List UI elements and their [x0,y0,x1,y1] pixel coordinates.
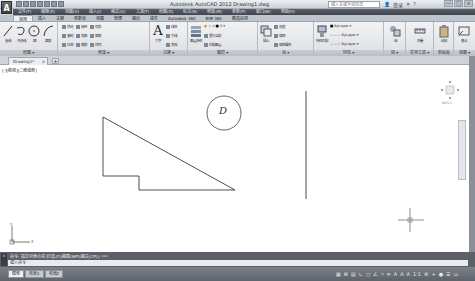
linear-dim-icon [166,25,170,29]
help-icon[interactable]: ? [413,1,416,8]
command-input[interactable]: 键入命令 [8,260,468,266]
save-as-icon[interactable] [37,1,43,7]
ribbon: 直线 多段线 圆 圆弧 绘图 ▾ 移动 旋转 修剪 复制 镜像 圆角 拉伸 [0,22,475,56]
osnap-icon[interactable]: ∠ [373,271,377,277]
match-layer-button[interactable]: 匹配图层 [204,42,221,47]
lineweight-dropdown[interactable]: ———ByLayer▾ [330,33,359,37]
sign-in-icon[interactable]: 👤 [384,1,390,8]
scale-button[interactable]: 缩放 [81,42,87,47]
circle-tool[interactable]: 圆 [28,24,40,43]
tab-model[interactable]: 模型 [8,270,24,278]
minimize-button[interactable]: — [444,0,453,7]
tab-layout1[interactable]: 布局1 [25,270,44,278]
command-history: 命令: 指定对角点或 [栏选(F)/圈围(WP)/圈交(CP)]: *** [10,253,108,259]
array-button[interactable]: 阵列 [95,42,101,47]
annotation-scale-icon[interactable]: A [407,271,410,277]
grid-icon[interactable]: ⊞ [344,271,348,277]
color-dropdown[interactable]: ■ByLayer▾ [330,24,351,28]
search-input[interactable]: 键入关键字或短语 [328,1,380,8]
group-tool[interactable]: 组 [389,24,401,43]
table-button[interactable]: 表格 [166,42,177,47]
arc-tool[interactable]: 圆弧 [42,24,54,43]
undo-icon[interactable] [51,1,57,7]
wcs-dropdown[interactable]: WCS ▾ [442,101,451,105]
arc-icon [42,24,54,38]
layer-properties-tool[interactable]: 图层特性 [190,24,202,43]
chevron-down-icon: ▾ [357,33,359,37]
tab-insert[interactable]: 插入 [33,15,51,21]
tab-parametric[interactable]: 参数化 [69,15,91,21]
tab-bim-360[interactable]: BIM 360 [201,15,227,21]
auto-scale-icon[interactable]: A [400,271,403,277]
sign-in-button[interactable]: 登录 [393,1,403,8]
tab-autodesk-360[interactable]: Autodesk 360 [163,15,201,21]
linetype-dropdown[interactable]: ———ByLayer▾ [330,42,359,46]
tab-view[interactable]: 视图 [91,15,109,21]
tab-manage[interactable]: 管理 [109,15,127,21]
hardware-accel-icon[interactable]: ● [439,271,443,277]
polar-icon[interactable]: ◻ [366,271,370,277]
fillet-button[interactable]: 圆角 [95,33,101,38]
stretch-button[interactable]: 拉伸 [67,42,73,47]
rotate-button[interactable]: 旋转 [81,24,87,29]
basepoint-tool[interactable]: 基点 [458,24,470,43]
copy-button[interactable]: 复制 [67,33,73,38]
document-tab-drawing1[interactable]: Drawing1* × [8,57,48,65]
text-tool[interactable]: A 文字 [152,24,164,43]
tab-home[interactable]: 常用 [13,15,33,21]
print-icon[interactable] [44,1,50,7]
add-icon[interactable]: + [432,271,436,277]
redo-icon[interactable] [58,1,64,7]
chevron-down-icon: ▾ [223,24,225,28]
snap-icon[interactable]: ▤ [351,271,356,277]
new-tab-button[interactable]: + [52,58,59,64]
clean-screen-icon[interactable]: ▭ [454,271,459,277]
insert-block-tool[interactable]: 插入 [260,24,272,43]
tab-plugins[interactable]: 插件 [145,15,163,21]
command-line-handle[interactable]: × [1,253,7,266]
trim-button[interactable]: 修剪 [95,24,101,29]
paste-tool[interactable]: 粘贴 [438,24,450,43]
mirror-button[interactable]: 镜像 [81,33,87,38]
close-icon[interactable]: × [2,253,5,258]
edit-block-button[interactable]: 编辑 [274,33,285,38]
create-block-button[interactable]: 创建 [274,24,285,29]
otrack-icon[interactable]: ⌗ [381,271,384,277]
scale-value[interactable]: 1:1 [413,271,421,277]
window-controls: — □ × [444,0,473,7]
tab-output[interactable]: 输出 [127,15,145,21]
panel-annotation: A 文字 线性 引线 表格 注释 ▾ [150,22,188,56]
layer-dropdown[interactable]: ●☼▫■0▾ [204,24,225,28]
lineweight-icon[interactable]: ≡ [387,271,391,277]
model-space-icon[interactable]: ▦ [336,271,341,277]
rotate-icon [76,25,80,29]
polyline-tool[interactable]: 多段线 [15,24,27,43]
maximize-button[interactable]: □ [454,0,463,7]
match-properties-tool[interactable]: 特性匹配 [316,24,328,43]
open-file-icon[interactable] [23,1,29,7]
workspace-gear-icon[interactable]: ⚙ [424,271,428,277]
exchange-icon[interactable]: ✕ [406,1,410,8]
ortho-icon[interactable]: ∟ [359,271,363,277]
move-button[interactable]: 移动 [67,24,73,29]
navigation-bar[interactable] [458,120,466,180]
viewcube[interactable]: WCS ▾ [440,80,460,100]
new-file-icon[interactable] [16,1,22,7]
linear-dim-button[interactable]: 线性 [166,24,177,29]
line-tool[interactable]: 直线 [2,24,14,43]
application-menu-button[interactable]: A [1,1,12,14]
save-icon[interactable] [30,1,36,7]
annotation-visibility-icon[interactable]: A [394,271,397,277]
close-tab-icon[interactable]: × [42,58,45,65]
close-button[interactable]: × [464,0,473,7]
layer-properties-icon [190,24,202,38]
make-current-button[interactable]: 置为当前 [204,33,221,38]
edit-attributes-button[interactable]: 编辑属性 [274,42,291,47]
customize-icon[interactable]: ☰ [446,271,450,277]
tab-layout2[interactable]: 布局2 [45,270,64,278]
measure-tool[interactable]: 测量 [414,24,426,43]
drawing-canvas[interactable]: [-][俯视][二维线框] D Y X WCS ▾ [0,65,469,252]
tab-annotate[interactable]: 注释 [51,15,69,21]
leader-button[interactable]: 引线 [166,33,177,38]
tab-featured-apps[interactable]: 精选应用 [227,15,253,21]
